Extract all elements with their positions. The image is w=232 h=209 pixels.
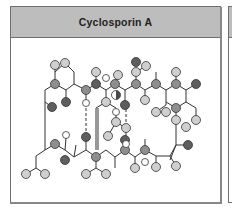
molecule-diagram <box>0 0 232 209</box>
atoms <box>22 58 201 179</box>
split-atom-icon <box>112 91 121 100</box>
bonds <box>26 63 196 174</box>
